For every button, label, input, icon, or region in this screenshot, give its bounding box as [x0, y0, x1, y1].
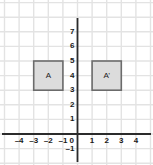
x-tick-label: 2	[104, 137, 108, 145]
y-tick-label: 6	[70, 42, 74, 50]
y-tick-label: 3	[70, 86, 74, 94]
coordinate-plane-figure: AA’–4–3–2–112347654321–10	[0, 0, 153, 165]
x-tick-label: 3	[119, 137, 123, 145]
x-tick-label: –2	[44, 137, 53, 145]
x-tick-label: –3	[29, 137, 38, 145]
y-tick-label: 4	[70, 72, 74, 80]
x-tick-label: –4	[15, 137, 24, 145]
y-tick-label: 5	[70, 57, 74, 65]
x-tick-label: 4	[134, 137, 138, 145]
origin-label: 0	[70, 137, 74, 145]
shape-label-a: A	[46, 72, 51, 80]
shape-label-a-prime: A’	[103, 72, 110, 80]
x-tick-label: 1	[90, 137, 94, 145]
y-tick-label: –1	[66, 145, 75, 153]
y-tick-label: 1	[70, 115, 74, 123]
y-tick-label: 2	[70, 101, 74, 109]
y-tick-label: 7	[70, 28, 74, 36]
